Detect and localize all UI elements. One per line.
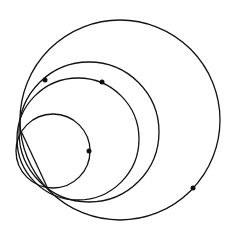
circles-diagram — [0, 0, 232, 233]
medium-circle — [17, 78, 139, 200]
small-circle — [16, 114, 90, 188]
dot-on-small-circle — [87, 149, 92, 154]
diagram-canvas — [0, 0, 232, 233]
dot-on-medium-circle — [100, 80, 105, 85]
dot-on-large-circle — [191, 186, 196, 191]
dot-on-medium-large-circle — [43, 78, 48, 83]
